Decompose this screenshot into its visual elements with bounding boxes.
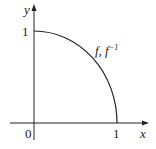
curve-label: f, f−1 [95, 44, 118, 57]
chart: y 1 0 1 x f, f−1 [0, 0, 156, 149]
plot-area [0, 0, 156, 149]
origin-label: 0 [25, 127, 32, 140]
x-axis-label: x [140, 127, 146, 140]
x-axis-arrow-icon [142, 121, 149, 126]
x-tick-1: 1 [113, 127, 120, 140]
curve-label-text: f, f [95, 43, 109, 58]
y-axis-arrow-icon [32, 4, 37, 11]
y-tick-1: 1 [22, 25, 29, 38]
y-axis-label: y [24, 3, 30, 16]
curve-label-sup: −1 [109, 43, 118, 52]
